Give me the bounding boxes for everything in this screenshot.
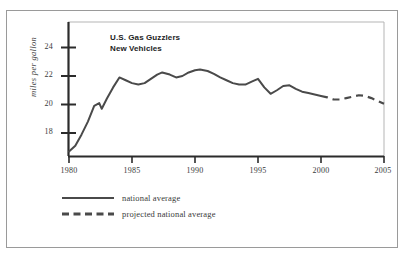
y-tick-label-18: 18 bbox=[33, 127, 53, 136]
chart-title-line1: U.S. Gas Guzzlers bbox=[110, 32, 180, 43]
legend-swatch-dashed bbox=[62, 209, 114, 219]
x-tick-label-1995: 1995 bbox=[241, 166, 275, 175]
chart-legend: national average projected national aver… bbox=[62, 190, 216, 222]
x-tick-label-1980: 1980 bbox=[52, 166, 86, 175]
legend-item-projected-national-average: projected national average bbox=[62, 206, 216, 222]
y-tick-label-24: 24 bbox=[33, 42, 53, 51]
x-tick-label-1990: 1990 bbox=[178, 166, 212, 175]
series-national-average bbox=[69, 70, 321, 152]
x-tick-label-2005: 2005 bbox=[366, 166, 400, 175]
chart-figure: miles per gallon 24 22 20 18 1980 1985 1… bbox=[0, 0, 406, 258]
y-tick-label-20: 20 bbox=[33, 99, 53, 108]
chart-title-block: U.S. Gas Guzzlers New Vehicles bbox=[110, 32, 180, 54]
legend-label-national-average: national average bbox=[122, 193, 180, 203]
chart-title-line2: New Vehicles bbox=[110, 43, 180, 54]
series-projected-national-average bbox=[321, 95, 384, 104]
x-tick-label-1985: 1985 bbox=[115, 166, 149, 175]
x-tick-label-2000: 2000 bbox=[304, 166, 338, 175]
legend-item-national-average: national average bbox=[62, 190, 216, 206]
legend-swatch-solid bbox=[62, 193, 114, 203]
legend-label-projected-national-average: projected national average bbox=[122, 209, 216, 219]
y-tick-label-22: 22 bbox=[33, 70, 53, 79]
